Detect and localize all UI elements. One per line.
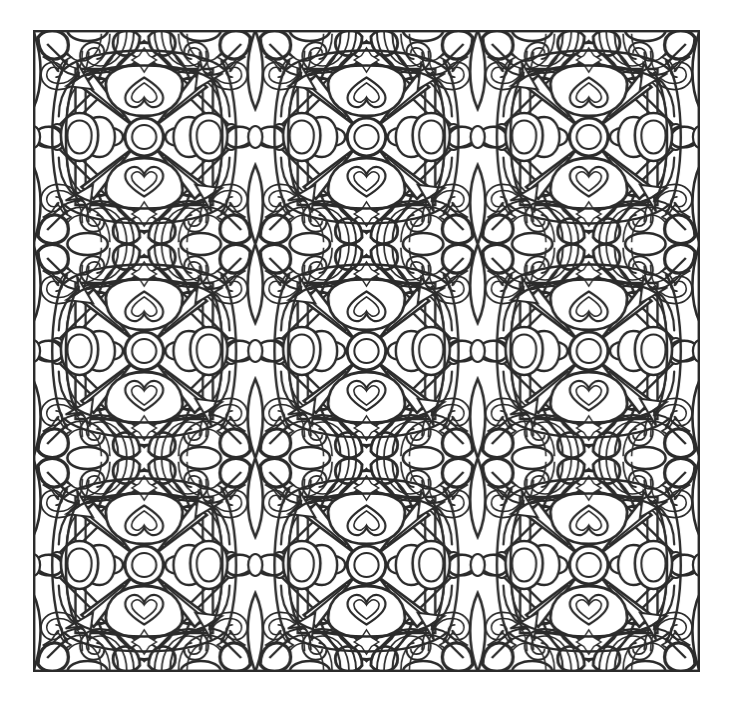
tiled-pattern-fill bbox=[33, 30, 700, 672]
page-root: Ornamental Tiled Mandala Coloring Page D… bbox=[0, 0, 733, 704]
artwork-frame bbox=[33, 30, 700, 672]
pattern-canvas bbox=[33, 30, 700, 672]
ornament-field bbox=[33, 30, 700, 672]
